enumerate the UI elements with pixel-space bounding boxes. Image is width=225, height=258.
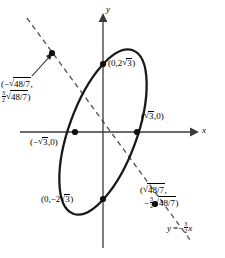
radical-3: √3 <box>122 58 132 68</box>
radical-3: √3 <box>60 194 70 204</box>
text-open: (0,2 <box>108 58 122 68</box>
text-close: ) <box>70 194 73 204</box>
radical-sign-second: √ <box>6 90 11 102</box>
radical-48-7-second: √48/7 <box>6 90 28 103</box>
radical-sign: √ <box>38 137 43 146</box>
x-axis-arrowhead <box>190 128 199 137</box>
equation-variable: x <box>188 223 192 233</box>
radical-sign: √ <box>9 77 14 89</box>
text-open: (− <box>30 137 38 147</box>
x-axis-label: x <box>202 126 206 135</box>
label-x-intercept-negative: (−√3,0) <box>30 137 58 147</box>
y-axis-label: y <box>106 5 110 14</box>
radical-sign: √ <box>143 183 148 195</box>
label-bottom-right-tangency: (√48/7, −32√48/7) <box>140 183 179 210</box>
point-y-intercept-negative <box>100 196 106 202</box>
fraction-denominator: 2 <box>2 97 6 103</box>
text-open: (0,−2 <box>41 194 60 204</box>
equation-lhs: y <box>167 223 171 233</box>
radical-3: √3 <box>144 111 154 121</box>
radicand-48-7: 48/7 <box>147 183 165 196</box>
comma: , <box>165 185 167 195</box>
figure-canvas <box>0 0 225 258</box>
fraction-denominator: 2 <box>150 203 154 209</box>
point-x-intercept-positive <box>134 129 140 135</box>
text-close: ) <box>132 58 135 68</box>
radical-48-7-second: √48/7 <box>154 196 176 209</box>
equation-minus: − <box>178 223 183 233</box>
text-close: ,0) <box>154 111 164 121</box>
label-top-left-tangency: (−√48/7, 32√48/7) <box>1 77 33 104</box>
paren-close: ) <box>176 198 179 208</box>
radicand-48-7-second: 48/7 <box>10 90 28 103</box>
label-x-intercept-positive: (√3,0) <box>141 111 164 121</box>
text-close: ,0) <box>48 137 58 147</box>
radicand-48-7: 48/7 <box>13 77 31 90</box>
radical-48-7: √48/7 <box>9 77 31 90</box>
point-top-left-tangency <box>49 50 55 56</box>
radical-3: √3 <box>38 137 48 147</box>
radical-48-7: √48/7 <box>143 183 165 196</box>
label-line-equation: y=−32x <box>167 221 192 234</box>
point-y-intercept-positive <box>100 61 106 67</box>
radical-sign: √ <box>60 194 65 203</box>
fraction-3-2: 32 <box>2 90 6 103</box>
label-y-intercept-negative: (0,−2√3) <box>41 194 73 204</box>
paren-close: ) <box>28 92 31 102</box>
minus-sign: − <box>144 198 149 208</box>
radical-sign-second: √ <box>154 196 159 208</box>
fraction-numerator: 3 <box>150 196 154 203</box>
radical-sign: √ <box>144 111 149 120</box>
radical-sign: √ <box>122 58 127 67</box>
fraction-numerator: 3 <box>2 90 6 97</box>
fraction-3-2: 32 <box>150 196 154 209</box>
comma: , <box>31 79 33 89</box>
ellipse-figure: y x (−√48/7, 32√48/7) (0,2√3) (√3,0) (−√… <box>0 0 225 258</box>
radicand-48-7-second: 48/7 <box>158 196 176 209</box>
point-x-intercept-negative <box>72 129 78 135</box>
label-y-intercept-positive: (0,2√3) <box>108 58 135 68</box>
